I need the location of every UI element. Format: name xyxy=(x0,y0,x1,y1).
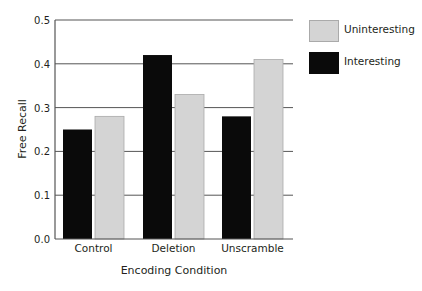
bar-interesting-deletion xyxy=(143,55,172,239)
x-tick-labels: ControlDeletionUnscramble xyxy=(75,242,284,254)
y-tick-label: 0.1 xyxy=(34,190,50,201)
y-tick-labels: 0.00.10.20.30.40.5 xyxy=(34,15,50,245)
bar-interesting-control xyxy=(63,130,92,240)
legend-swatch-uninteresting xyxy=(309,20,339,42)
y-tick-label: 0.0 xyxy=(34,234,50,245)
bar-uninteresting-control xyxy=(95,116,124,239)
x-tick-label: Unscramble xyxy=(221,242,284,254)
y-tick-label: 0.3 xyxy=(34,103,50,114)
bar-interesting-unscramble xyxy=(222,116,251,239)
y-tick-label: 0.4 xyxy=(34,59,50,70)
y-tick-label: 0.2 xyxy=(34,146,50,157)
legend-swatch-interesting xyxy=(309,52,339,74)
legend-label-uninteresting: Uninteresting xyxy=(344,23,415,35)
bars xyxy=(63,55,283,239)
y-axis-label: Free Recall xyxy=(16,99,29,159)
legend-label-interesting: Interesting xyxy=(344,55,401,67)
x-axis-label: Encoding Condition xyxy=(121,264,228,277)
legend-item-interesting: Interesting xyxy=(309,52,422,76)
bar-uninteresting-deletion xyxy=(175,94,204,239)
x-tick-label: Deletion xyxy=(151,242,195,254)
bar-uninteresting-unscramble xyxy=(254,59,283,239)
y-tick-label: 0.5 xyxy=(34,15,50,26)
legend-item-uninteresting: Uninteresting xyxy=(309,20,422,44)
x-tick-label: Control xyxy=(75,242,113,254)
